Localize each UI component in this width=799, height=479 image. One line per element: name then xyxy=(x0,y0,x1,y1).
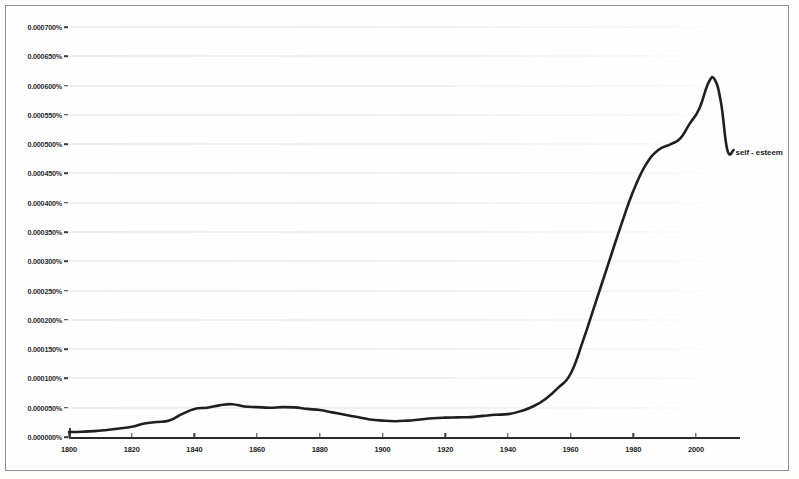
x-axis-tick-mark xyxy=(507,433,508,438)
y-axis-tick-label: 0.000150% xyxy=(6,345,62,354)
y-axis-tick-mark xyxy=(64,231,68,233)
ngram-chart: 0.000700%0.000650%0.000600%0.000550%0.00… xyxy=(0,0,799,479)
y-axis-tick-mark xyxy=(64,55,68,57)
y-axis-tick-mark xyxy=(64,378,68,380)
gridline xyxy=(69,85,735,86)
x-axis-line xyxy=(69,437,740,439)
x-axis-tick-mark xyxy=(194,433,195,438)
y-axis-tick-label: 0.000500% xyxy=(6,140,62,149)
series-label: self - esteem xyxy=(736,148,783,157)
x-axis-tick-mark xyxy=(695,433,696,438)
y-axis-tick-label: 0.000650% xyxy=(6,52,62,61)
x-axis-tick-mark xyxy=(131,433,132,438)
x-axis-tick-mark xyxy=(570,433,571,438)
x-axis-tick-label: 1900 xyxy=(374,445,390,454)
x-axis-tick-label: 1940 xyxy=(500,445,516,454)
chart-screenshot: 0.000700%0.000650%0.000600%0.000550%0.00… xyxy=(0,0,799,479)
y-axis-tick-mark xyxy=(64,348,68,350)
x-axis-tick-label: 2000 xyxy=(688,445,704,454)
y-axis-tick-mark xyxy=(64,319,68,321)
y-axis-tick-label: 0.000050% xyxy=(6,403,62,412)
y-axis-tick-mark xyxy=(64,143,68,145)
x-axis-tick-label: 1820 xyxy=(124,445,140,454)
gridline xyxy=(69,232,735,233)
x-axis-tick-mark xyxy=(444,433,445,438)
x-axis-tick-mark xyxy=(633,433,634,438)
x-axis-tick-mark xyxy=(256,433,257,438)
y-axis-tick-label: 0.000250% xyxy=(6,286,62,295)
y-axis-tick-label: 0.000550% xyxy=(6,110,62,119)
x-axis-tick-label: 1880 xyxy=(312,445,328,454)
gridline xyxy=(69,290,735,291)
gridline xyxy=(69,144,735,145)
x-axis-tick-label: 1980 xyxy=(625,445,641,454)
y-axis-tick-mark xyxy=(64,260,68,262)
y-axis-tick-label: 0.000450% xyxy=(6,169,62,178)
y-axis-tick-label: 0.000100% xyxy=(6,374,62,383)
gridline xyxy=(69,56,735,57)
y-axis-tick-mark xyxy=(64,26,68,28)
y-axis-tick-mark xyxy=(64,202,68,204)
y-axis-tick-mark xyxy=(64,407,68,409)
x-axis-tick-label: 1840 xyxy=(186,445,202,454)
y-axis-tick-label: 0.000350% xyxy=(6,228,62,237)
x-axis-tick-label: 1800 xyxy=(61,445,77,454)
y-axis-tick-label: 0.000700% xyxy=(6,23,62,32)
gridline xyxy=(69,27,735,28)
y-axis-tick-mark xyxy=(64,173,68,175)
gridline xyxy=(69,349,735,350)
y-axis-tick-label: 0.000400% xyxy=(6,198,62,207)
y-axis-tick-mark xyxy=(64,290,68,292)
gridline xyxy=(69,319,735,320)
x-axis-tick-mark xyxy=(68,433,69,438)
y-axis-tick-label: 0.000600% xyxy=(6,81,62,90)
x-axis-tick-label: 1860 xyxy=(249,445,265,454)
y-axis-tick-mark xyxy=(64,114,68,116)
y-axis-tick-label: 0.000200% xyxy=(6,315,62,324)
x-axis-tick-mark xyxy=(319,433,320,438)
y-axis-tick-label: 0.000300% xyxy=(6,257,62,266)
gridline xyxy=(69,378,735,379)
gridline xyxy=(69,261,735,262)
y-axis-tick-mark xyxy=(64,85,68,87)
x-axis-tick-label: 1960 xyxy=(563,445,579,454)
gridline xyxy=(69,407,735,408)
x-axis-tick-label: 1920 xyxy=(437,445,453,454)
gridline xyxy=(69,173,735,174)
gridline xyxy=(69,114,735,115)
gridline xyxy=(69,202,735,203)
y-axis-tick-label: 0.000000% xyxy=(6,433,62,442)
x-axis-tick-mark xyxy=(382,433,383,438)
